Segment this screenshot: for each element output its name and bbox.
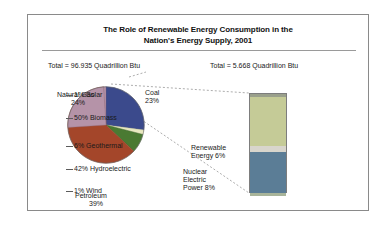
bar-label-solar: 1% Solar: [74, 91, 102, 98]
pie-label-nuclear-line2: Electric: [183, 176, 206, 183]
bar-tick-hydroelectric: [66, 169, 73, 170]
bar-tick-biomass: [66, 118, 73, 119]
figure-title: The Role of Renewable Energy Consumption…: [28, 25, 368, 46]
pie-label-renewable-pct: Energy 6%: [191, 152, 226, 160]
renewable-energy-stacked-bar: [249, 93, 287, 193]
bar-tick-wind: [66, 191, 73, 192]
pie-label-natural-gas-pct: 24%: [57, 99, 94, 107]
pie-label-nuclear-electric-power: Nuclear Electric Power 8%: [183, 168, 215, 192]
pie-label-nuclear-line3: Power 8%: [183, 184, 215, 191]
bar-label-geothermal: 6% Geothermal: [74, 142, 123, 149]
pie-label-renewable-name: Renewable: [191, 144, 226, 151]
bar-label-hydroelectric: 42% Hydroelectric: [74, 165, 131, 172]
pie-label-coal-name: Coal: [145, 89, 159, 96]
bar-segment-biomass: [250, 97, 286, 146]
pie-label-petroleum: Petroleum 39%: [75, 192, 107, 208]
pie-label-coal: Coal 23%: [145, 89, 159, 105]
total-left-label: Total = 96.935 Quadrillion Btu: [48, 62, 140, 69]
bar-segment-wind: [250, 193, 286, 196]
total-right-label: Total = 5.668 Quadrillion Btu: [210, 62, 298, 69]
pie-label-renewable-energy: Renewable Energy 6%: [191, 144, 226, 160]
figure-panel: The Role of Renewable Energy Consumption…: [27, 14, 369, 211]
figure-title-line1: The Role of Renewable Energy Consumption…: [103, 25, 293, 34]
bar-tick-solar: [66, 95, 73, 96]
pie-label-petroleum-pct: 39%: [75, 200, 107, 208]
bar-label-biomass: 50% Biomass: [74, 114, 117, 121]
pie-slice-coal: [106, 87, 144, 130]
bar-tick-geothermal: [66, 146, 73, 147]
title-divider: [42, 50, 356, 51]
pie-label-nuclear-line1: Nuclear: [183, 168, 207, 175]
pie-label-coal-pct: 23%: [145, 97, 159, 105]
figure-title-line2: Nation's Energy Supply, 2001: [144, 36, 252, 45]
bar-label-wind: 1% Wind: [74, 187, 102, 194]
bar-segment-hydroelectric: [250, 152, 286, 193]
